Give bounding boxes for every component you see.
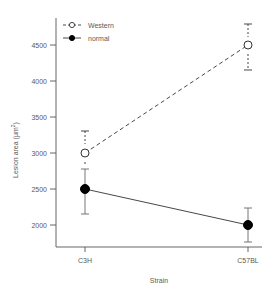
chart-svg: 4500 4000 3500 3000 2500 2000 Lesion are… [0,0,274,297]
data-point-normal-c3h [81,185,90,194]
y-axis-title-close: ) [12,122,20,124]
y-tick-label-3000: 3000 [31,150,47,157]
legend-marker-western [69,22,74,27]
legend-item-normal[interactable]: normal [63,35,110,42]
y-tick-label-2500: 2500 [31,186,47,193]
y-tick-label-3500: 3500 [31,114,47,121]
series-normal [81,169,253,242]
legend-label-western: Western [88,22,114,29]
data-point-normal-c57bl [244,221,253,230]
y-tick-label-4000: 4000 [31,78,47,85]
y-axis-title-group: Lesion area (µm2) [10,122,20,178]
data-point-western-c3h [81,149,89,157]
legend-label-normal: normal [88,35,110,42]
y-tick-label-2000: 2000 [31,222,47,229]
x-tick-label-c57bl: C57BL [237,257,259,264]
legend-item-western[interactable]: Western [63,22,114,29]
y-axis-ticks [50,45,56,225]
error-bar-western-c3h [81,131,89,164]
y-axis-title: Lesion area (µm2) [10,122,20,178]
x-axis-ticks [85,247,248,252]
series-western [81,24,252,164]
x-tick-label-c3h: C3H [78,257,92,264]
legend-marker-normal [69,35,74,40]
data-point-western-c57bl [244,41,252,49]
series-western-line [85,45,248,153]
y-axis-title-base: Lesion area (µm [12,127,20,178]
y-tick-label-4500: 4500 [31,42,47,49]
x-axis-title: Strain [150,277,168,284]
series-normal-line [85,189,248,225]
chart-legend: Western normal [63,22,114,42]
chart-container: 4500 4000 3500 3000 2500 2000 Lesion are… [0,0,274,297]
